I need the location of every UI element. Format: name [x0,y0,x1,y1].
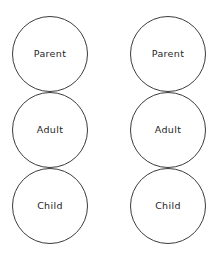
left-circle-parent[interactable]: Parent [12,16,88,92]
right-circle-parent[interactable]: Parent [130,16,206,92]
left-ego-state-stack: Parent Adult Child [0,0,109,255]
right-circle-child[interactable]: Child [130,168,206,244]
right-circle-parent-label: Parent [152,49,185,59]
left-circle-adult-label: Adult [37,125,64,135]
right-circle-adult[interactable]: Adult [130,92,206,168]
left-circle-parent-label: Parent [34,49,67,59]
left-circle-child[interactable]: Child [12,168,88,244]
left-circle-child-label: Child [37,201,63,211]
right-ego-state-stack: Parent Adult Child [109,0,218,255]
right-circle-child-label: Child [155,201,181,211]
right-circle-adult-label: Adult [155,125,182,135]
pac-ego-state-diagram: Parent Adult Child Parent Adult Child [0,0,218,255]
left-circle-adult[interactable]: Adult [12,92,88,168]
